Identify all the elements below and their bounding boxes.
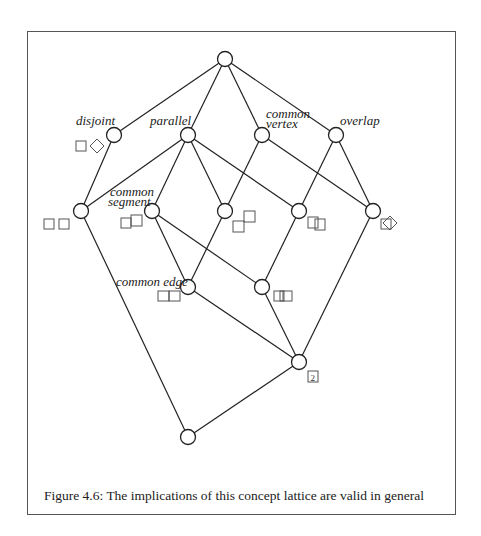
lattice-node-overlap: [329, 128, 344, 143]
lattice-edge: [152, 135, 188, 211]
label-common-segment-2: segment: [108, 194, 151, 209]
label-overlap: overlap: [340, 113, 380, 128]
lattice-nodes: [74, 52, 381, 445]
label-disjoint: disjoint: [76, 113, 115, 128]
lattice-edge: [188, 287, 299, 362]
icon-disjoint-square-diamond: [76, 139, 104, 153]
concept-lattice-diagram: disjoint parallel common vertex overlap …: [0, 0, 481, 536]
icon-square-diamond-overlap: [381, 216, 397, 230]
lattice-edge: [225, 59, 262, 135]
lattice-node-disjoint: [107, 128, 122, 143]
figure-caption: Figure 4.6: The implications of this con…: [44, 488, 424, 504]
label-parallel: parallel: [149, 113, 192, 128]
lattice-node-top: [218, 52, 233, 67]
icon-squares-partial-edge: [274, 291, 292, 301]
lattice-edge: [336, 135, 373, 211]
lattice-node-parallel: [181, 128, 196, 143]
lattice-node-n3d: [292, 204, 307, 219]
lattice-edge: [188, 211, 225, 287]
lattice-edge: [188, 59, 225, 135]
lattice-edge: [81, 211, 188, 437]
icon-squares-overlap-parallel: [308, 217, 325, 230]
count-badge: 2: [311, 373, 316, 383]
lattice-node-n4b: [255, 280, 270, 295]
lattice-edge: [188, 362, 299, 437]
lattice-edge: [299, 135, 336, 211]
lattice-node-bottom: [181, 430, 196, 445]
icon-squares-common-segment: [121, 215, 142, 228]
lattice-edge: [188, 135, 225, 211]
lattice-node-n3c: [218, 204, 233, 219]
lattice-edge: [262, 211, 299, 287]
lattice-node-n3a: [74, 204, 89, 219]
icon-squares-common-edge: [158, 291, 180, 301]
icon-two-squares-apart: [44, 219, 69, 229]
lattice-edge: [299, 211, 373, 362]
label-common-vertex-2: vertex: [266, 116, 298, 131]
lattice-node-n3e: [366, 204, 381, 219]
label-common-edge: common edge: [116, 274, 188, 289]
lattice-edges: [81, 59, 373, 437]
lattice-node-n5: [292, 355, 307, 370]
lattice-edge: [225, 135, 262, 211]
icon-squares-common-vertex: [233, 211, 255, 232]
